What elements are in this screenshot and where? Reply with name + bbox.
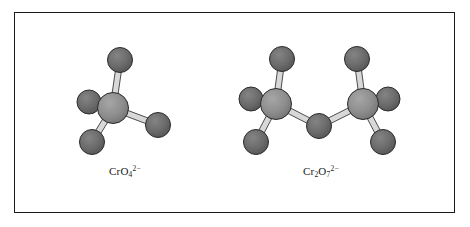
- atom-chromate-o-lower-left: [80, 130, 105, 155]
- atom-dichromate-oR-right: [376, 87, 400, 111]
- chromate-formula-prefix: CrO: [109, 165, 129, 177]
- molecule-label-dichromate: Cr2O72−: [303, 165, 339, 177]
- molecule-diagram-canvas: [0, 0, 470, 227]
- atom-chromate-o-right: [146, 113, 171, 138]
- dichromate-formula-prefix: Cr: [303, 165, 314, 177]
- atom-dichromate-crL: [261, 89, 292, 120]
- atom-chromate-o-top: [108, 48, 133, 73]
- dichromate-charge: 2−: [330, 164, 338, 173]
- atom-dichromate-oL-left: [239, 87, 263, 111]
- chromate-charge: 2−: [133, 164, 141, 173]
- figure-root: CrO42− Cr2O72−: [0, 0, 470, 227]
- atom-dichromate-o-bridge: [307, 114, 332, 139]
- atom-dichromate-oL-top: [270, 47, 295, 72]
- atom-layer: [77, 47, 400, 155]
- atom-dichromate-crR: [348, 89, 379, 120]
- bond-cr1-o-top: [112, 69, 122, 96]
- atom-dichromate-oR-lower: [371, 130, 396, 155]
- dichromate-formula-mid: O: [318, 165, 326, 177]
- atom-dichromate-oR-top: [345, 47, 370, 72]
- atom-chromate-cr1: [98, 93, 129, 124]
- bond-layer: [94, 68, 381, 135]
- molecule-label-chromate: CrO42−: [109, 165, 141, 177]
- atom-dichromate-oL-lower: [244, 130, 269, 155]
